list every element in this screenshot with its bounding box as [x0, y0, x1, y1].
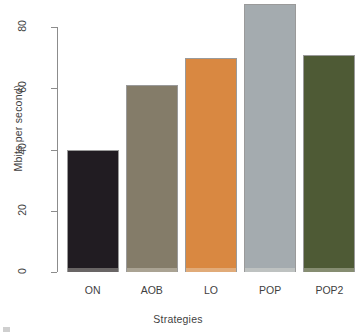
y-axis-line — [57, 27, 58, 272]
bar-on — [67, 150, 119, 273]
y-axis-tick-label: 20 — [16, 190, 28, 230]
bar-pop — [244, 4, 296, 272]
bar-aob — [126, 85, 178, 272]
bar-base-highlight — [127, 268, 177, 272]
bar-chart: Mbits per second) 020406080 ONAOBLOPOPPO… — [0, 0, 356, 336]
y-axis-tick — [51, 272, 57, 273]
bar-base-highlight — [68, 268, 118, 272]
bar-base-highlight — [186, 268, 236, 272]
y-axis-tick — [51, 88, 57, 89]
y-axis-tick — [51, 211, 57, 212]
y-axis-tick-label: 60 — [16, 67, 28, 107]
bar-lo — [185, 58, 237, 272]
y-axis-tick-label: 0 — [16, 251, 28, 291]
x-axis-tick-label-pop2: POP2 — [294, 284, 356, 296]
bar-pop2 — [303, 55, 355, 272]
y-axis-tick — [51, 150, 57, 151]
y-axis-tick-label: 40 — [16, 129, 28, 169]
y-axis-tick — [51, 27, 57, 28]
y-axis-tick-label: 80 — [16, 6, 28, 46]
x-axis-title: Strategies — [0, 313, 356, 325]
bar-base-highlight — [245, 268, 295, 272]
bar-base-highlight — [304, 268, 354, 272]
plot-area — [60, 0, 356, 272]
corner-artifact — [3, 327, 10, 332]
